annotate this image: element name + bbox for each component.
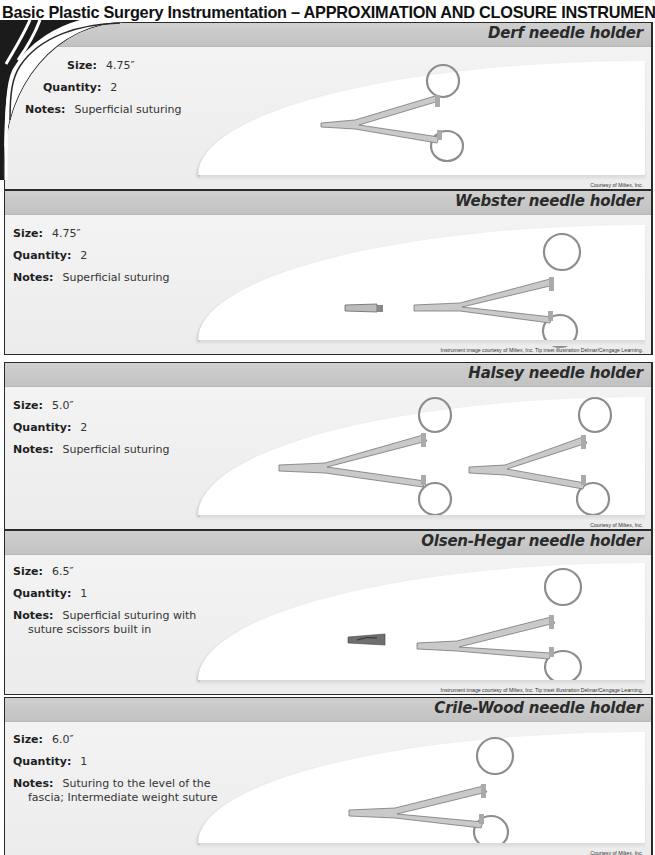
needle-holder-image-1 [275, 393, 455, 523]
size-label: Size: [13, 223, 43, 245]
needle-holder-image [413, 561, 583, 691]
size-label: Size: [13, 395, 43, 417]
notes-value-continued: suture scissors built in [13, 623, 196, 637]
panel-body: Size: 6.5″ Quantity: 1 Notes: Superficia… [5, 555, 651, 694]
panel-header: Derf needle holder [5, 23, 651, 47]
photo-shadow [200, 515, 645, 521]
quantity-value: 2 [80, 245, 87, 267]
quantity-label: Quantity: [13, 751, 71, 773]
photo-shadow [200, 175, 645, 181]
notes-value-continued: fascia; Intermediate weight suture [13, 791, 217, 805]
image-credit: Courtesy of Miltex, Inc. [590, 850, 643, 855]
spec-list: Size: 6.5″ Quantity: 1 Notes: Superficia… [13, 561, 196, 637]
size-value: 6.5″ [52, 561, 74, 583]
panel-header: Halsey needle holder [5, 363, 651, 387]
instrument-name: Webster needle holder [455, 192, 643, 210]
image-credit: Instrument image courtesy of Miltex, Inc… [441, 347, 643, 353]
spec-quantity: Quantity: 1 [13, 583, 196, 605]
image-credit: Courtesy of Miltex, Inc. [590, 522, 643, 528]
quantity-label: Quantity: [13, 583, 71, 605]
spec-notes: Notes: Superficial suturing [13, 439, 170, 461]
spec-size: Size: 6.5″ [13, 561, 196, 583]
quantity-value: 2 [110, 77, 117, 99]
spec-list: Size: 4.75″ Quantity: 2 Notes: Superfici… [25, 55, 182, 121]
needle-holder-image-2 [465, 393, 625, 523]
instrument-name: Crile-Wood needle holder [434, 699, 643, 717]
instrument-panel-webster: Webster needle holder Size: 4.75″ Quanti… [4, 190, 653, 355]
spec-quantity: Quantity: 1 [13, 751, 217, 773]
tip-inset-image [343, 301, 393, 315]
size-label: Size: [67, 55, 97, 77]
photo-shadow [200, 843, 645, 849]
panel-body: Size: 4.75″ Quantity: 2 Notes: Superfici… [5, 47, 651, 189]
panel-header: Crile-Wood needle holder [5, 698, 651, 722]
size-label: Size: [13, 729, 43, 751]
spec-size: Size: 6.0″ [13, 729, 217, 751]
spec-quantity: Quantity: 2 [13, 417, 170, 439]
instrument-name: Olsen-Hegar needle holder [421, 532, 643, 550]
image-credit: Courtesy of Miltex, Inc. [590, 182, 643, 188]
notes-value: Superficial suturing with [62, 609, 196, 623]
quantity-value: 2 [80, 417, 87, 439]
panel-body: Size: 6.0″ Quantity: 1 Notes: Suturing t… [5, 722, 651, 855]
needle-holder-image [315, 57, 495, 167]
spec-quantity: Quantity: 2 [25, 77, 182, 99]
size-label: Size: [13, 561, 43, 583]
tip-inset-image [347, 633, 389, 647]
quantity-label: Quantity: [13, 245, 71, 267]
notes-value: Superficial suturing [62, 267, 169, 289]
notes-label: Notes: [13, 777, 53, 791]
quantity-label: Quantity: [43, 77, 101, 99]
spec-quantity: Quantity: 2 [13, 245, 170, 267]
quantity-label: Quantity: [13, 417, 71, 439]
spec-list: Size: 4.75″ Quantity: 2 Notes: Superfici… [13, 223, 170, 289]
photo-shadow [200, 680, 645, 686]
needle-holder-image [345, 726, 525, 855]
instrument-panel-halsey: Halsey needle holder Size: 5.0″ Quantity… [4, 362, 653, 530]
quantity-value: 1 [80, 751, 87, 773]
notes-label: Notes: [13, 609, 53, 623]
spec-notes: Notes: Superficial suturing [25, 99, 182, 121]
panel-header: Olsen-Hegar needle holder [5, 531, 651, 555]
spec-size: Size: 4.75″ [13, 223, 170, 245]
notes-value: Suturing to the level of the [62, 777, 210, 791]
spec-notes: Notes: Suturing to the level of the fasc… [13, 777, 217, 805]
spec-size: Size: 5.0″ [13, 395, 170, 417]
notes-value: Superficial suturing [62, 439, 169, 461]
panel-body: Size: 4.75″ Quantity: 2 Notes: Superfici… [5, 215, 651, 354]
needle-holder-image [410, 225, 600, 355]
size-value: 6.0″ [52, 729, 74, 751]
quantity-value: 1 [80, 583, 87, 605]
spec-list: Size: 5.0″ Quantity: 2 Notes: Superficia… [13, 395, 170, 461]
spec-list: Size: 6.0″ Quantity: 1 Notes: Suturing t… [13, 729, 217, 805]
spec-size: Size: 4.75″ [25, 55, 182, 77]
notes-label: Notes: [13, 439, 53, 461]
instrument-panel-crile-wood: Crile-Wood needle holder Size: 6.0″ Quan… [4, 697, 653, 855]
spec-notes: Notes: Superficial suturing with suture … [13, 609, 196, 637]
notes-label: Notes: [25, 99, 65, 121]
photo-shadow [200, 340, 645, 346]
instrument-name: Derf needle holder [488, 24, 643, 42]
instrument-panel-derf: Derf needle holder Size: 4.75″ Quantity:… [4, 22, 653, 190]
instrument-name: Halsey needle holder [468, 364, 643, 382]
image-credit: Instrument image courtesy of Miltex, Inc… [441, 687, 643, 693]
panel-header: Webster needle holder [5, 191, 651, 215]
notes-value: Superficial suturing [74, 99, 181, 121]
notes-label: Notes: [13, 267, 53, 289]
size-value: 5.0″ [52, 395, 74, 417]
size-value: 4.75″ [52, 223, 81, 245]
panel-body: Size: 5.0″ Quantity: 2 Notes: Superficia… [5, 387, 651, 529]
instrument-panel-olsen-hegar: Olsen-Hegar needle holder Size: 6.5″ Qua… [4, 530, 653, 695]
page-title: Basic Plastic Surgery Instrumentation – … [2, 3, 655, 22]
size-value: 4.75″ [106, 55, 135, 77]
spec-notes: Notes: Superficial suturing [13, 267, 170, 289]
